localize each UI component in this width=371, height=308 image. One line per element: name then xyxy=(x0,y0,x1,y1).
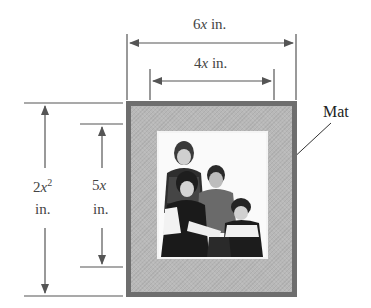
inner-height-unit: in. xyxy=(93,202,108,217)
outer-height-unit: in. xyxy=(35,202,50,217)
family-photo xyxy=(157,131,268,259)
mat-callout-label: Mat xyxy=(323,104,349,120)
inner-width-label: 4x in. xyxy=(194,56,227,71)
outer-width-label: 6x in. xyxy=(193,17,226,32)
family-photo-illustration xyxy=(159,133,266,257)
inner-height-label: 5x xyxy=(92,178,106,193)
outer-height-label: 2x2 xyxy=(33,178,52,195)
